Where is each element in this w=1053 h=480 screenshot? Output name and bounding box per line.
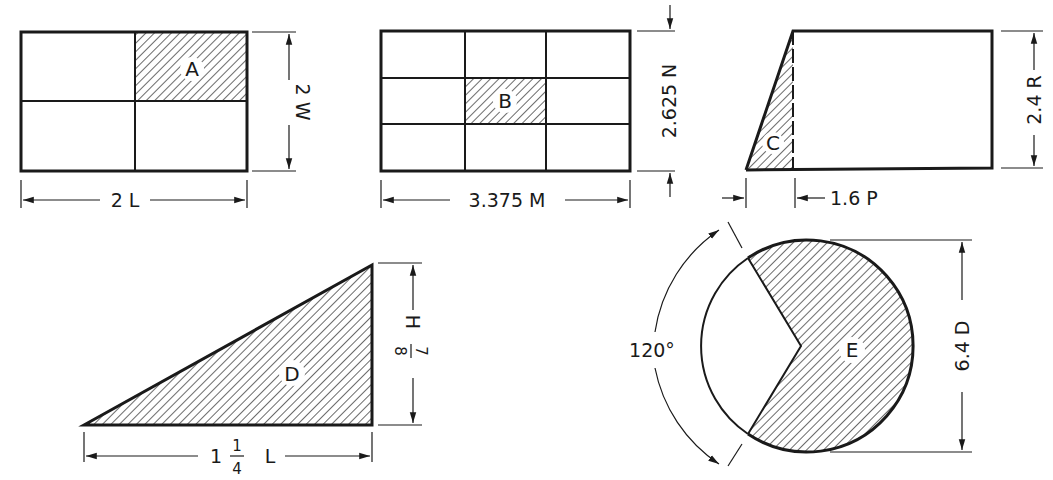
dim-base-d-whole: 1 [210, 445, 222, 467]
figure-b: B 3.375 M 2.625 N [381, 5, 680, 211]
label-b: B [498, 89, 512, 113]
dim-base-d-unit: L [265, 445, 276, 467]
dim-height-c: 2.4 R [1023, 75, 1045, 124]
dim-height-d-unit: H [402, 315, 424, 329]
label-d: D [284, 362, 299, 386]
label-e: E [846, 338, 859, 362]
dim-height-d-den: 8 [391, 346, 409, 356]
label-c: C [766, 131, 780, 155]
figure-d: D 1 1 4 L H 7 8 [84, 263, 430, 478]
dim-width-b: 3.375 M [469, 189, 546, 211]
diagram-canvas: A 2 L 2 W B 3.375 M 2.625 N [0, 0, 1053, 480]
dim-height-a: 2 W [292, 84, 314, 121]
shaded-region-e [748, 240, 913, 452]
figure-e: E 120° 6.4 D [629, 222, 973, 466]
dim-height-d-num: 7 [412, 346, 430, 356]
dim-offset-c: 1.6 P [830, 187, 878, 209]
figure-c: C 1.6 P 2.4 R [722, 31, 1045, 209]
dim-angle-e: 120° [629, 339, 675, 361]
label-a: A [185, 57, 199, 81]
dim-base-d-num: 1 [232, 437, 242, 455]
figure-a: A 2 L 2 W [21, 32, 314, 211]
dim-base-d-den: 4 [232, 460, 242, 478]
dim-width-a: 2 L [111, 189, 140, 211]
dim-height-b: 2.625 N [658, 64, 680, 139]
dim-diameter-e: 6.4 D [951, 321, 973, 372]
